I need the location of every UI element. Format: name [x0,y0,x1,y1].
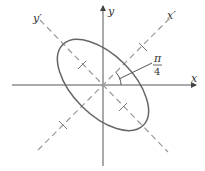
x-prime-axis [38,16,172,150]
x-axis-label: x [191,72,198,85]
y-prime-axis [40,20,168,152]
x-prime-label: x′ [167,9,176,22]
y-prime-label: y′ [32,12,42,25]
angle-denominator: 4 [154,66,160,77]
y-axis-label: y [107,5,115,18]
ellipse-diagram: y x y′ x′ π 4 [0,0,205,171]
angle-numerator: π [153,52,162,65]
